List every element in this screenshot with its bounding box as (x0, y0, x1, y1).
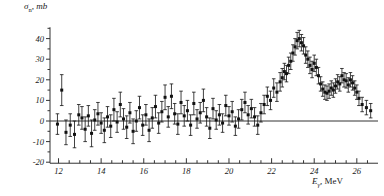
data-point (269, 91, 273, 110)
x-tick-label: 26 (353, 166, 362, 176)
y-tick-label: -20 (33, 157, 45, 167)
x-tick-label: 20 (225, 166, 234, 176)
data-point (80, 107, 84, 130)
data-point (128, 102, 132, 123)
data-point (109, 115, 113, 138)
data-point (275, 83, 279, 102)
data-point (160, 101, 164, 122)
figure-container: σn, mb Eγ, MeV 403020100-10-20 121416182… (0, 0, 384, 196)
data-point (60, 75, 64, 106)
data-point (170, 84, 174, 109)
y-tick-label: 30 (35, 54, 45, 64)
data-point (99, 113, 103, 134)
data-point (73, 121, 77, 148)
data-point (87, 106, 91, 127)
data-point (141, 115, 145, 136)
data-point (189, 115, 193, 136)
scatter-plot: 403020100-10-20 1214161820222426 (0, 0, 384, 196)
data-point (304, 47, 308, 63)
data-point (186, 100, 190, 121)
y-axis-ticks: 403020100-10-20 (33, 28, 50, 167)
data-point (317, 67, 321, 83)
x-tick-label: 22 (267, 166, 276, 176)
data-point (214, 111, 218, 130)
x-tick-label: 18 (182, 166, 191, 176)
data-point (234, 117, 238, 136)
data-point (56, 114, 60, 135)
data-point (227, 107, 231, 126)
data-point (237, 110, 241, 129)
data-point (125, 116, 129, 139)
y-tick-label: -10 (33, 137, 45, 147)
data-point (272, 79, 276, 98)
data-point (262, 95, 266, 114)
data-point (211, 98, 215, 119)
data-point (64, 120, 68, 145)
y-tick-label: 10 (36, 95, 45, 105)
data-point (250, 99, 254, 118)
data-point (205, 108, 209, 127)
data-point (192, 92, 196, 115)
data-point (243, 92, 247, 113)
data-point (240, 99, 244, 120)
data-point (144, 105, 148, 126)
data-point (112, 98, 116, 121)
data-point (287, 57, 291, 73)
data-point (300, 34, 304, 50)
x-tick-label: 14 (97, 166, 106, 176)
data-point (302, 38, 306, 54)
x-axis-ticks: 1214161820222426 (54, 158, 367, 176)
data-point (297, 30, 301, 46)
data-point (68, 114, 72, 137)
data-point (115, 112, 119, 133)
data-point (154, 95, 158, 118)
data-point (119, 92, 123, 117)
x-tick-label: 16 (140, 166, 149, 176)
data-point (360, 97, 364, 111)
data-point (150, 108, 154, 129)
data-point (369, 103, 373, 117)
data-point (176, 114, 180, 135)
x-tick-label: 24 (310, 166, 319, 176)
data-point (266, 87, 270, 106)
data-point (278, 73, 282, 92)
data-point (253, 108, 257, 127)
data-point (256, 116, 260, 135)
data-point (259, 103, 263, 122)
y-tick-label: 20 (36, 75, 45, 85)
data-point (202, 89, 206, 112)
data-point (365, 100, 369, 114)
y-tick-label: 40 (36, 34, 45, 44)
data-point (198, 102, 202, 123)
data-point (106, 107, 110, 128)
data-point (138, 96, 142, 119)
data-point (157, 113, 161, 134)
data-point (224, 95, 228, 116)
data-point (230, 101, 234, 122)
data-point (131, 119, 135, 144)
data-point (218, 105, 222, 126)
data-points (56, 30, 373, 147)
data-point (179, 91, 183, 114)
data-point (122, 109, 126, 130)
data-point (96, 102, 100, 125)
data-point (147, 119, 151, 142)
data-point (195, 110, 199, 129)
data-point (134, 111, 138, 132)
data-point (182, 106, 186, 127)
data-point (103, 118, 107, 143)
x-tick-label: 12 (54, 166, 63, 176)
data-point (90, 120, 94, 147)
data-point (93, 110, 97, 131)
y-tick-label: 0 (40, 116, 45, 126)
data-point (163, 85, 167, 110)
data-point (221, 114, 225, 133)
data-point (77, 105, 81, 126)
data-point (166, 107, 170, 128)
